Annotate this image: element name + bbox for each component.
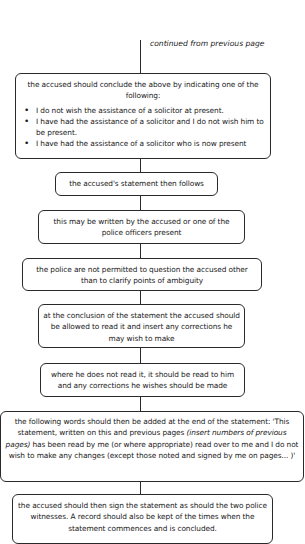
step-text-part: has been read by me (or where appropriat… (9, 440, 299, 460)
connector-top (140, 40, 141, 73)
connector-7-8 (140, 482, 141, 494)
connector-6-7 (140, 397, 141, 411)
step-closing-words: the following words should then be added… (0, 411, 304, 482)
step-text: the accused's statement then follows (69, 178, 204, 189)
option-list: I do not wish the assistance of a solici… (20, 105, 266, 150)
step-conclude-solicitor-choice: the accused should conclude the above by… (15, 73, 271, 159)
step-no-questioning: the police are not permitted to question… (22, 258, 262, 291)
step-statement-follows: the accused's statement then follows (55, 172, 218, 196)
step-text: where he does not read it, it should be … (45, 369, 240, 392)
connector-2-3 (140, 196, 141, 210)
option-item: I have had the assistance of a solicitor… (36, 116, 266, 139)
continuation-label: continued from previous page (150, 39, 265, 48)
step-who-writes: this may be written by the accused or on… (38, 210, 245, 244)
option-item: I have had the assistance of a solicitor… (36, 138, 266, 149)
step-read-and-correct: at the conclusion of the statement the a… (38, 304, 245, 348)
connector-1-2 (140, 159, 141, 172)
connector-5-6 (140, 348, 141, 363)
step-text: this may be written by the accused or on… (43, 216, 240, 239)
step-text: the following words should then be added… (5, 416, 299, 461)
step-sign-statement: the accused should then sign the stateme… (12, 494, 273, 544)
step-text: the accused should conclude the above by… (20, 79, 266, 102)
step-text: the accused should then sign the stateme… (17, 500, 268, 534)
step-text: at the conclusion of the statement the a… (43, 310, 240, 344)
option-item: I do not wish the assistance of a solici… (36, 105, 266, 116)
connector-3-4 (140, 244, 141, 258)
step-text: the police are not permitted to question… (27, 264, 257, 287)
connector-4-5 (140, 291, 141, 304)
step-read-to-him: where he does not read it, it should be … (40, 363, 245, 397)
